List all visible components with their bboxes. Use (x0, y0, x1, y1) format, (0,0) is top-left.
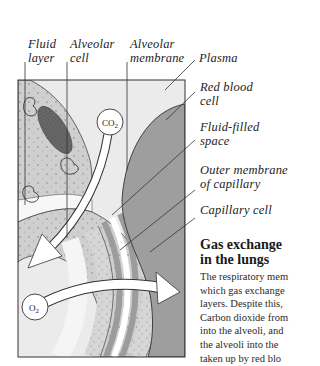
label-capillary-cell: Capillary cell (200, 203, 272, 217)
label-red-blood-cell: Red bloodcell (200, 80, 253, 108)
caption-line: which gas exchange (200, 284, 294, 298)
label-alveolar-cell: Alveolarcell (70, 37, 115, 65)
label-alveolar-membrane: Alveolarmembrane (130, 37, 184, 65)
label-fluid-filled-space: Fluid-filledspace (200, 120, 259, 148)
label-outer-membrane: Outer membraneof capillary (200, 163, 288, 191)
caption-line: into the alveoli, and (200, 324, 294, 338)
caption-line: The respiratory mem (200, 270, 294, 284)
caption-line: Carbon dioxide from (200, 311, 294, 325)
caption-line: layers. Despite this, (200, 297, 294, 311)
caption-line: taken up by red blo (200, 352, 294, 366)
caption-line: the alveoli into the (200, 338, 294, 352)
caption-title: Gas exchangein the lungs (200, 237, 282, 267)
label-plasma: Plasma (199, 51, 238, 65)
label-fluid-layer: Fluidlayer (28, 37, 56, 65)
caption-body: The respiratory mem which gas exchange l… (200, 270, 294, 365)
